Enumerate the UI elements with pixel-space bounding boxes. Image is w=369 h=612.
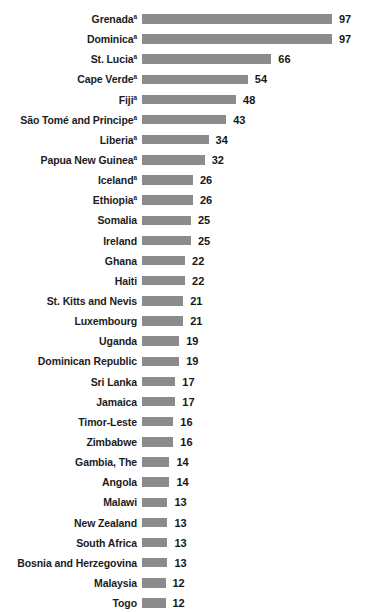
- chart-row: South Africa13: [0, 533, 369, 553]
- bar-area: 13: [142, 553, 369, 573]
- bar-value-label: 17: [182, 372, 194, 392]
- chart-row: Icelanda26: [0, 170, 369, 190]
- chart-row: Ireland25: [0, 231, 369, 251]
- bar: [142, 558, 167, 567]
- bar-value-label: 26: [200, 170, 212, 190]
- category-label: Liberiaa: [0, 130, 137, 150]
- chart-rows: Grenadaa97Dominicaa97St. Luciaa66Cape Ve…: [0, 9, 369, 612]
- bar-area: 21: [142, 291, 369, 311]
- footnote-marker: a: [133, 133, 137, 140]
- category-label: Dominican Republic: [0, 351, 137, 371]
- chart-row: Luxembourg21: [0, 311, 369, 331]
- bar-value-label: 25: [198, 231, 210, 251]
- category-label: Ireland: [0, 231, 137, 251]
- bar-value-label: 34: [216, 130, 228, 150]
- bar: [142, 276, 185, 285]
- bar-value-label: 17: [182, 392, 194, 412]
- category-label: Malaysia: [0, 573, 137, 593]
- bar-value-label: 19: [186, 351, 198, 371]
- bar-value-label: 54: [255, 69, 267, 89]
- category-label: Luxembourg: [0, 311, 137, 331]
- bar: [142, 498, 167, 507]
- chart-row: Sri Lanka17: [0, 372, 369, 392]
- bar-value-label: 19: [186, 331, 198, 351]
- category-label: Malawi: [0, 492, 137, 512]
- bar: [142, 54, 271, 63]
- bar-area: 43: [142, 110, 369, 130]
- bar-area: 32: [142, 150, 369, 170]
- bar: [142, 14, 332, 23]
- chart-row: St. Luciaa66: [0, 49, 369, 69]
- bar-area: 26: [142, 190, 369, 210]
- category-label: St. Luciaa: [0, 49, 137, 69]
- chart-row: Zimbabwe16: [0, 432, 369, 452]
- bar-value-label: 13: [174, 533, 186, 553]
- chart-row: Angola14: [0, 472, 369, 492]
- category-label: Sri Lanka: [0, 372, 137, 392]
- chart-row: Haiti22: [0, 271, 369, 291]
- category-label: New Zealand: [0, 513, 137, 533]
- cropped-chart-title: [36, 0, 336, 2]
- bar: [142, 397, 175, 406]
- category-label: São Tomé and Principea: [0, 110, 137, 130]
- footnote-marker: a: [133, 73, 137, 80]
- category-label: Togo: [0, 593, 137, 612]
- category-label: Gambia, The: [0, 452, 137, 472]
- chart-row: Gambia, The14: [0, 452, 369, 472]
- category-label: Fijia: [0, 90, 137, 110]
- footnote-marker: a: [133, 174, 137, 181]
- bar-area: 17: [142, 392, 369, 412]
- bar: [142, 417, 173, 426]
- bar: [142, 75, 248, 84]
- bar-area: 66: [142, 49, 369, 69]
- bar-value-label: 66: [278, 49, 290, 69]
- footnote-marker: a: [133, 153, 137, 160]
- bar-chart: Grenadaa97Dominicaa97St. Luciaa66Cape Ve…: [0, 0, 369, 612]
- bar: [142, 95, 236, 104]
- bar: [142, 518, 167, 527]
- chart-row: Dominicaa97: [0, 29, 369, 49]
- bar-value-label: 16: [180, 412, 192, 432]
- bar: [142, 437, 173, 446]
- bar-value-label: 12: [173, 573, 185, 593]
- bar-value-label: 22: [192, 251, 204, 271]
- bar-area: 16: [142, 432, 369, 452]
- bar-value-label: 22: [192, 271, 204, 291]
- chart-row: Somalia25: [0, 210, 369, 230]
- bar: [142, 357, 179, 366]
- chart-row: Papua New Guineaa32: [0, 150, 369, 170]
- bar-value-label: 16: [180, 432, 192, 452]
- bar-area: 16: [142, 412, 369, 432]
- category-label: Cape Verdea: [0, 69, 137, 89]
- bar: [142, 175, 193, 184]
- bar-value-label: 97: [339, 29, 351, 49]
- category-label: Angola: [0, 472, 137, 492]
- bar-area: 22: [142, 251, 369, 271]
- footnote-marker: a: [133, 113, 137, 120]
- chart-row: Ghana22: [0, 251, 369, 271]
- bar-area: 25: [142, 231, 369, 251]
- bar-value-label: 21: [190, 311, 202, 331]
- bar: [142, 336, 179, 345]
- bar-value-label: 13: [174, 513, 186, 533]
- bar-area: 22: [142, 271, 369, 291]
- bar-value-label: 13: [174, 553, 186, 573]
- bar-area: 12: [142, 593, 369, 612]
- bar-area: 14: [142, 452, 369, 472]
- footnote-marker: a: [133, 13, 137, 20]
- bar-area: 19: [142, 351, 369, 371]
- chart-row: New Zealand13: [0, 513, 369, 533]
- bar: [142, 457, 169, 466]
- bar-area: 13: [142, 492, 369, 512]
- bar: [142, 377, 175, 386]
- category-label: Zimbabwe: [0, 432, 137, 452]
- bar: [142, 477, 169, 486]
- footnote-marker: a: [133, 53, 137, 60]
- chart-row: Jamaica17: [0, 392, 369, 412]
- chart-row: Dominican Republic19: [0, 351, 369, 371]
- chart-row: Uganda19: [0, 331, 369, 351]
- bar-area: 97: [142, 29, 369, 49]
- bar-area: 97: [142, 9, 369, 29]
- bar-value-label: 14: [176, 452, 188, 472]
- bar: [142, 598, 166, 607]
